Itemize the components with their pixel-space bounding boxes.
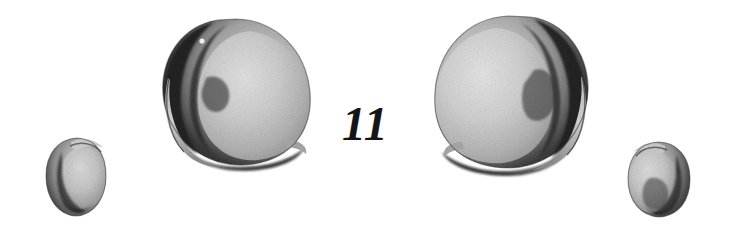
figure-number: 11 xyxy=(342,100,388,148)
specimen-3-large-shell-right xyxy=(435,16,588,176)
specimen-1-small-shell-left xyxy=(46,138,106,216)
illustration-plate: 11 xyxy=(0,0,732,237)
specimen-2-large-shell-left xyxy=(163,19,311,171)
specimen-4-small-shell-right xyxy=(628,142,690,217)
highlight-speck xyxy=(199,38,204,43)
